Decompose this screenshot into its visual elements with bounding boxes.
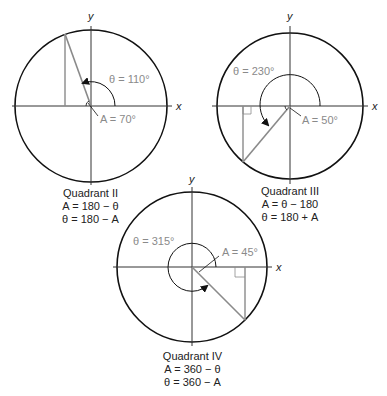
quadrant-ii-diagram: x y θ = 110° A = 70°	[12, 10, 182, 185]
caption-title: Quadrant IV	[130, 350, 255, 363]
caption-title: Quadrant III	[245, 185, 335, 198]
quadrant-ii-caption: Quadrant II A = 180 − θ θ = 180 − A	[28, 187, 153, 226]
ref-angle-arc	[285, 106, 287, 110]
quadrant-iv-caption: Quadrant IV A = 360 − θ θ = 360 − A	[130, 350, 255, 389]
ref-angle-pointer	[88, 103, 98, 116]
caption-formula: A = θ − 180	[245, 198, 335, 211]
x-axis-label: x	[175, 100, 182, 112]
terminal-side	[65, 34, 91, 106]
ref-angle-label: A = 50°	[302, 114, 338, 126]
theta-label: θ = 230°	[233, 65, 274, 77]
y-axis-label: y	[188, 173, 196, 185]
terminal-side	[192, 267, 245, 320]
caption-formula: A = 180 − θ	[28, 200, 153, 213]
right-angle-mark	[235, 267, 245, 277]
ref-angle-label: A = 45°	[222, 246, 258, 258]
ref-angle-label: A = 70°	[100, 113, 136, 125]
right-angle-mark	[243, 106, 251, 114]
caption-formula: θ = 180 − A	[28, 213, 153, 226]
theta-label: θ = 315°	[133, 235, 174, 247]
theta-label: θ = 110°	[109, 73, 150, 85]
ref-angle-pointer	[290, 108, 301, 116]
quadrant-iii-diagram: x y θ = 230° A = 50°	[212, 10, 378, 184]
caption-title: Quadrant II	[28, 187, 153, 200]
x-axis-label: x	[275, 261, 282, 273]
caption-formula: θ = 360 − A	[130, 376, 255, 389]
caption-formula: θ = 180 + A	[245, 211, 335, 224]
x-axis-label: x	[371, 100, 378, 112]
y-axis-label: y	[286, 10, 294, 22]
caption-formula: A = 360 − θ	[130, 363, 255, 376]
theta-arc	[83, 82, 115, 106]
quadrant-iii-caption: Quadrant III A = θ − 180 θ = 180 + A	[245, 185, 335, 224]
y-axis-label: y	[87, 10, 95, 22]
